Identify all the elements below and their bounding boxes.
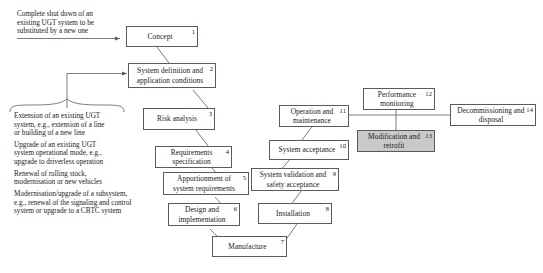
node-system-acceptance-label: System acceptance xyxy=(276,145,343,154)
node-system-validation-number: 9 xyxy=(333,170,336,178)
node-apportionment[interactable]: Apportionment of system requirements 5 xyxy=(163,172,249,195)
curly-brace-icon xyxy=(10,99,124,112)
node-requirements-specification[interactable]: Requirements specification 4 xyxy=(155,146,232,168)
connector-2-to-3 xyxy=(193,90,208,108)
connector-bullets-to-2 xyxy=(67,74,127,109)
node-system-acceptance-number: 10 xyxy=(339,142,346,150)
node-system-acceptance[interactable]: System acceptance 10 xyxy=(269,140,349,160)
node-system-definition-label: System definition and application condit… xyxy=(129,66,215,84)
node-installation[interactable]: Installation 8 xyxy=(258,203,332,224)
node-design-implementation[interactable]: Design and implementation 6 xyxy=(168,203,240,226)
node-modification-retrofit-label: Modification and retrofit xyxy=(358,132,434,150)
node-system-validation[interactable]: System validation and safety acceptance … xyxy=(251,168,339,191)
node-decommissioning-number: 14 xyxy=(526,106,533,114)
bullet-item: Renewal of rolling stock, modernisation … xyxy=(14,170,164,187)
node-performance-monitoring[interactable]: Performance monitoring 12 xyxy=(363,88,435,110)
node-system-definition[interactable]: System definition and application condit… xyxy=(128,63,216,88)
node-requirements-specification-number: 4 xyxy=(226,148,229,156)
node-system-definition-number: 2 xyxy=(210,65,213,73)
node-modification-retrofit[interactable]: Modification and retrofit 13 xyxy=(357,130,435,152)
annotation-bullet-list: Extension of an existing UGT system, e.g… xyxy=(14,112,164,219)
node-performance-monitoring-number: 12 xyxy=(425,90,432,98)
connector-3-to-4 xyxy=(196,130,208,146)
node-design-implementation-number: 6 xyxy=(234,205,237,213)
node-performance-monitoring-label: Performance monitoring xyxy=(364,90,434,108)
bullet-item: Modernisation/upgrade of a subsystem, e.… xyxy=(14,190,164,216)
node-concept-label: Concept xyxy=(145,32,180,41)
node-decommissioning-label: Decommissioning and disposal xyxy=(451,106,535,124)
node-apportionment-label: Apportionment of system requirements xyxy=(164,174,248,192)
node-installation-number: 8 xyxy=(326,205,329,213)
node-risk-analysis-number: 3 xyxy=(209,110,212,118)
node-manufacture[interactable]: Manufacture 7 xyxy=(212,236,287,257)
node-operation-maintenance-label: Operation and maintenance xyxy=(280,107,348,125)
node-system-validation-label: System validation and safety acceptance xyxy=(252,170,338,188)
node-requirements-specification-label: Requirements specification xyxy=(156,148,231,166)
node-decommissioning[interactable]: Decommissioning and disposal 14 xyxy=(450,104,536,126)
annotation-top-left: Complete shut down of an existing UGT sy… xyxy=(17,10,122,36)
diagram-canvas: Concept 1 System definition and applicat… xyxy=(0,0,543,273)
node-operation-maintenance-number: 11 xyxy=(340,107,346,115)
node-manufacture-label: Manufacture xyxy=(225,242,273,251)
node-modification-retrofit-number: 13 xyxy=(425,132,432,140)
node-manufacture-number: 7 xyxy=(281,238,284,246)
node-apportionment-number: 5 xyxy=(243,174,246,182)
node-concept-number: 1 xyxy=(192,28,195,36)
bullet-item: Upgrade of an existing UGT system operat… xyxy=(14,141,164,167)
node-design-implementation-label: Design and implementation xyxy=(169,205,239,223)
node-operation-maintenance[interactable]: Operation and maintenance 11 xyxy=(279,105,349,127)
node-concept[interactable]: Concept 1 xyxy=(126,26,198,47)
node-installation-label: Installation xyxy=(273,209,317,218)
bullet-item: Extension of an existing UGT system, e.g… xyxy=(14,112,164,138)
